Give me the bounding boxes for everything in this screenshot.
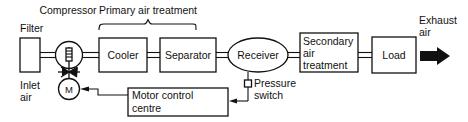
motor-label: M [65,84,73,95]
inlet-air-caption-line2: air [20,91,32,103]
compressor-caption: Compressor [39,4,97,16]
pressure-switch-symbol[interactable] [245,72,252,101]
filter-caption: Filter [20,22,44,34]
exhaust-air-caption-line2: air [419,26,431,38]
control-wire-mcc-to-motor [80,87,128,96]
secondary-air-treatment-label-line3: treatment [303,59,347,71]
connector-receiver-secondary [288,53,300,58]
pressure-switch-caption-line1: Pressure [254,77,296,89]
control-wire-switch-to-mcc [229,99,248,104]
connector-secondary-load [358,53,372,58]
secondary-air-treatment-label-line2: air [303,47,315,59]
pressure-switch-caption-line2: switch [254,89,283,101]
exhaust-air-caption-line1: Exhaust [419,14,457,26]
motor-control-centre-label-line2: centre [132,102,161,114]
motor-control-centre-label-line1: Motor control [132,89,193,101]
connector-compressor-cooler [83,53,100,58]
primary-air-treatment-brace [99,20,196,31]
secondary-air-treatment-label-line1: Secondary [303,35,354,47]
exhaust-arrow-icon [420,47,450,65]
inlet-air-caption-line1: Inlet [20,79,40,91]
connector-filter-compressor [40,53,56,58]
connector-cooler-separator [147,53,160,58]
load-label: Load [382,49,406,61]
diagram-canvas: Compressor Primary air treatment Filter … [0,0,468,122]
primary-air-treatment-caption: Primary air treatment [99,4,197,16]
separator-label: Separator [165,49,212,61]
filter-block[interactable] [20,38,40,72]
schematic-svg: Compressor Primary air treatment Filter … [0,0,468,122]
cooler-label: Cooler [108,49,139,61]
connector-separator-receiver [216,53,228,58]
receiver-label: Receiver [237,49,279,61]
